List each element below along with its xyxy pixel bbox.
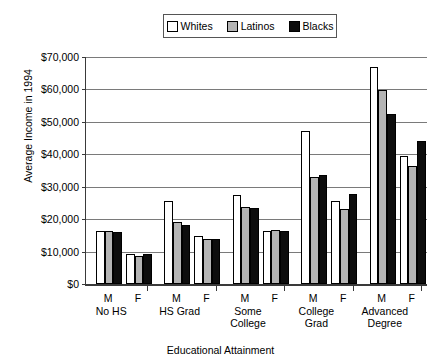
bar-whites-advanced-degree-f: [400, 156, 409, 284]
plot-area: $0$10,000$20,000$30,000$40,000$50,000$60…: [85, 57, 427, 284]
x-axis-sublabel-m: M: [240, 292, 249, 304]
bar-latinos-advanced-degree-f: [408, 166, 417, 284]
x-axis-group-label: HS Grad: [159, 305, 200, 317]
bar-whites-no-hs-f: [126, 254, 135, 284]
x-axis-group-divider-tick: [421, 285, 422, 291]
x-axis-sublabel-f: F: [135, 292, 141, 304]
bar-whites-some-college-m: [233, 195, 242, 285]
bar-latinos-college-grad-f: [340, 209, 349, 284]
bar-latinos-no-hs-m: [105, 231, 114, 284]
x-axis-sublabel-f: F: [272, 292, 278, 304]
y-axis-tick-label: $30,000: [41, 181, 79, 193]
x-axis-title: Educational Attainment: [0, 344, 441, 356]
bar-blacks-some-college-m: [250, 208, 259, 284]
bar-latinos-college-grad-m: [310, 177, 319, 284]
x-axis-group-label: CollegeGrad: [299, 305, 335, 329]
y-axis-tick-label: $70,000: [41, 51, 79, 63]
x-axis-sublabel-f: F: [408, 292, 414, 304]
chart-plot-wrapper: $0$10,000$20,000$30,000$40,000$50,000$60…: [0, 0, 441, 363]
x-axis-group-divider-tick: [147, 285, 148, 291]
bar-blacks-some-college-f: [280, 231, 289, 284]
bar-whites-hs-grad-m: [164, 201, 173, 284]
x-axis-group-divider-tick: [216, 285, 217, 291]
x-axis-sublabel-m: M: [309, 292, 318, 304]
y-axis-tick-label: $20,000: [41, 213, 79, 225]
bar-whites-no-hs-m: [96, 231, 105, 284]
bar-whites-college-grad-f: [331, 201, 340, 284]
bar-latinos-advanced-degree-m: [378, 90, 387, 284]
bar-blacks-no-hs-m: [113, 232, 122, 284]
bar-whites-advanced-degree-m: [370, 67, 379, 284]
bar-latinos-hs-grad-m: [173, 222, 182, 284]
x-axis-group-label: AdvancedDegree: [361, 305, 408, 329]
x-axis-sublabel-m: M: [172, 292, 181, 304]
bar-blacks-no-hs-f: [143, 254, 152, 284]
bars-layer: [86, 57, 427, 284]
x-axis-group-label: No HS: [96, 305, 127, 317]
x-axis-line: [85, 284, 427, 286]
bar-blacks-college-grad-m: [319, 175, 328, 284]
y-axis-tick-label: $10,000: [41, 246, 79, 258]
bar-whites-college-grad-m: [301, 131, 310, 284]
x-axis-group-label: SomeCollege: [230, 305, 266, 329]
bar-whites-some-college-f: [263, 231, 272, 285]
y-axis-tick-label: $60,000: [41, 83, 79, 95]
bar-blacks-hs-grad-m: [182, 225, 191, 284]
bar-latinos-hs-grad-f: [203, 239, 212, 284]
x-axis-sublabel-f: F: [340, 292, 346, 304]
y-axis-tick-label: $50,000: [41, 116, 79, 128]
bar-blacks-hs-grad-f: [212, 239, 221, 284]
bar-blacks-advanced-degree-m: [387, 114, 396, 284]
x-axis-sublabel-m: M: [377, 292, 386, 304]
bar-latinos-some-college-m: [241, 207, 250, 284]
bar-latinos-no-hs-f: [135, 256, 144, 284]
y-axis-tick-label: $40,000: [41, 148, 79, 160]
bar-latinos-some-college-f: [271, 230, 280, 284]
x-axis-sublabel-m: M: [104, 292, 113, 304]
y-axis-tick-label: $0: [67, 278, 79, 290]
x-axis-sublabel-f: F: [203, 292, 209, 304]
x-axis-group-divider-tick: [284, 285, 285, 291]
bar-blacks-college-grad-f: [349, 194, 358, 284]
bar-blacks-advanced-degree-f: [417, 141, 426, 284]
x-axis-group-divider-tick: [353, 285, 354, 291]
bar-whites-hs-grad-f: [194, 236, 203, 284]
